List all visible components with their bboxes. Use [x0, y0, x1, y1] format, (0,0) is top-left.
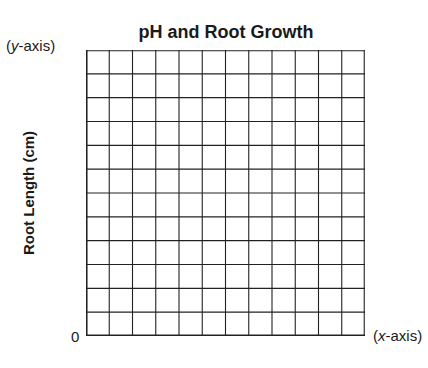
y-axis-tag: (y-axis) — [6, 37, 55, 54]
graph-grid[interactable] — [86, 50, 365, 336]
grid-lines — [86, 50, 365, 336]
chart-title: pH and Root Growth — [86, 22, 366, 43]
origin-label: 0 — [71, 328, 79, 345]
x-axis-tag: (x-axis) — [373, 327, 422, 344]
y-axis-label: Root Length (cm) — [20, 131, 37, 255]
